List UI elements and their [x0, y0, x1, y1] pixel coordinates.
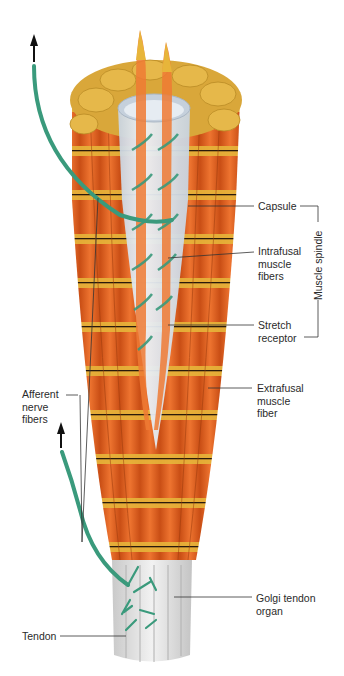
label-stretch-receptor: Stretch receptor: [258, 319, 297, 344]
label-tendon: Tendon: [22, 630, 56, 643]
label-capsule: Capsule: [258, 200, 297, 213]
label-extrafusal-muscle-fiber: Extrafusal muscle fiber: [257, 382, 304, 420]
label-afferent-nerve-fibers: Afferent nerve fibers: [22, 388, 59, 426]
label-muscle-spindle: Muscle spindle: [312, 231, 324, 300]
label-golgi-tendon-organ: Golgi tendon organ: [256, 592, 316, 617]
label-intrafusal-muscle-fibers: Intrafusal muscle fibers: [258, 245, 301, 283]
